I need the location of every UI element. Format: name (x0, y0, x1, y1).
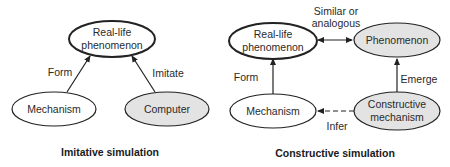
node-mechanism-right: Mechanism (230, 94, 316, 128)
imitative-simulation-panel: Form Imitate Real-life phenomenon Mechan… (12, 21, 209, 158)
mechanism-label: Mechanism (27, 103, 81, 115)
similar-label-line2: analogous (312, 17, 360, 29)
constructive-line2: mechanism (370, 111, 424, 123)
constructive-simulation-caption: Constructive simulation (275, 147, 395, 159)
emerge-label: Emerge (401, 73, 438, 85)
node-phenomenon: Phenomenon (354, 23, 440, 57)
node-real-life-phenomenon-right: Real-life phenomenon (229, 23, 317, 59)
constructive-line1: Constructive (368, 98, 427, 110)
node-real-life-phenomenon: Real-life phenomenon (69, 21, 155, 57)
infer-label: Infer (326, 120, 348, 132)
imitative-simulation-caption: Imitative simulation (61, 146, 159, 158)
form-label: Form (48, 66, 73, 78)
computer-label: Computer (144, 103, 191, 115)
constructive-simulation-panel: Similar or analogous Form Emerge Infer R… (229, 5, 440, 159)
similar-label-line1: Similar or (314, 5, 359, 17)
simulation-diagram: Form Imitate Real-life phenomenon Mechan… (0, 0, 450, 167)
phenomenon-label: Phenomenon (366, 34, 429, 46)
node-constructive-mechanism: Constructive mechanism (354, 92, 440, 130)
node-computer: Computer (125, 92, 209, 126)
real-life-line2-right: phenomenon (242, 41, 303, 53)
node-mechanism: Mechanism (12, 92, 96, 126)
real-life-line1: Real-life (93, 26, 132, 38)
real-life-line1-right: Real-life (254, 28, 293, 40)
imitate-label: Imitate (152, 67, 184, 79)
real-life-line2: phenomenon (81, 39, 142, 51)
mechanism-label-right: Mechanism (246, 105, 300, 117)
form-label-right: Form (234, 71, 259, 83)
